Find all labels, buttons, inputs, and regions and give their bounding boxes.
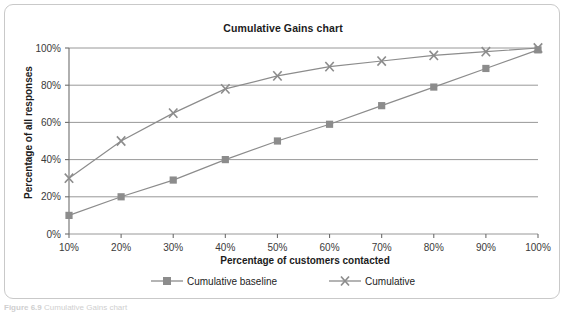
- svg-text:40%: 40%: [41, 154, 61, 165]
- svg-text:80%: 80%: [41, 80, 61, 91]
- svg-text:20%: 20%: [111, 242, 131, 253]
- svg-text:100%: 100%: [525, 242, 551, 253]
- figure-caption: Figure 6.9 Cumulative Gains chart: [4, 303, 404, 312]
- x-tick-labels-group: 10%20%30%40%50%60%70%80%90%100%: [59, 242, 551, 253]
- figure-caption-text: Cumulative Gains chart: [44, 303, 127, 312]
- figure-container: Cumulative Gains chart Percentage of all…: [0, 0, 572, 317]
- svg-text:70%: 70%: [372, 242, 392, 253]
- gridlines-group: [69, 48, 538, 234]
- svg-text:60%: 60%: [320, 242, 340, 253]
- svg-text:10%: 10%: [59, 242, 79, 253]
- legend-item-cumulative: Cumulative: [329, 275, 415, 287]
- svg-text:50%: 50%: [267, 242, 287, 253]
- x-marker-icon: [329, 275, 361, 287]
- svg-text:20%: 20%: [41, 191, 61, 202]
- svg-text:100%: 100%: [35, 43, 61, 54]
- legend-label-cumulative-baseline: Cumulative baseline: [187, 276, 277, 287]
- svg-text:80%: 80%: [424, 242, 444, 253]
- svg-text:0%: 0%: [47, 229, 62, 240]
- svg-text:40%: 40%: [215, 242, 235, 253]
- figure-caption-number: Figure 6.9: [4, 303, 42, 312]
- svg-text:60%: 60%: [41, 117, 61, 128]
- svg-text:90%: 90%: [476, 242, 496, 253]
- y-tick-labels-group: 0%20%40%60%80%100%: [35, 43, 61, 240]
- chart-legend: Cumulative baseline Cumulative: [5, 275, 561, 287]
- data-series-group: [65, 43, 542, 219]
- chart-frame: Cumulative Gains chart Percentage of all…: [4, 4, 560, 299]
- legend-item-cumulative-baseline: Cumulative baseline: [151, 275, 277, 287]
- square-marker-icon: [151, 275, 183, 287]
- axes-group: [65, 48, 538, 238]
- legend-label-cumulative: Cumulative: [365, 276, 415, 287]
- svg-text:30%: 30%: [163, 242, 183, 253]
- x-axis-title: Percentage of customers contacted: [65, 255, 545, 266]
